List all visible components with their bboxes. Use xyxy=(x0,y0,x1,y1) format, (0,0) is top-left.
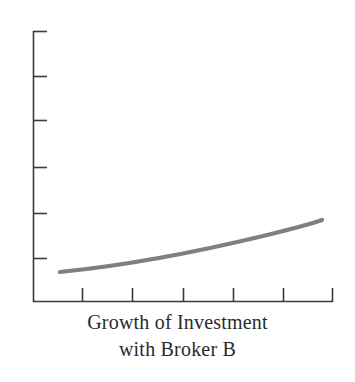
growth-of-investment-figure: Growth of Investment with Broker B xyxy=(0,0,355,382)
caption-line-2: with Broker B xyxy=(0,336,355,363)
figure-caption: Growth of Investment with Broker B xyxy=(0,309,355,363)
caption-line-1: Growth of Investment xyxy=(0,309,355,336)
